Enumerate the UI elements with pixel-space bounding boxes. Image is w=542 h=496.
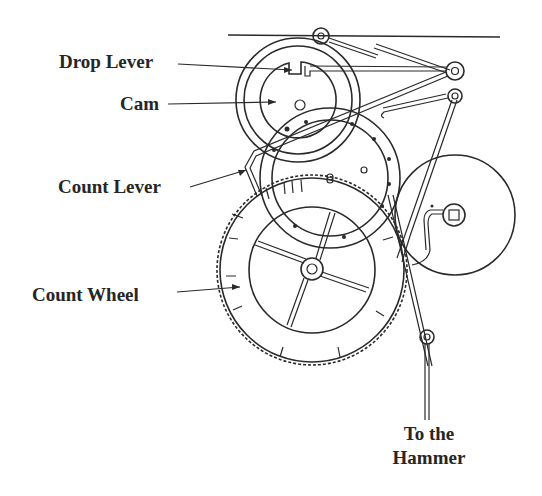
label-to-the: To the: [384, 424, 474, 443]
top-frame-line: [228, 35, 500, 37]
intermediate-wheel-inner: [272, 120, 388, 236]
label-drop-lever: Drop Lever: [59, 52, 153, 71]
upper-arm: [329, 38, 378, 58]
hammer-arm-pivot: [448, 89, 462, 103]
label-to-the-hammer: To the Hammer: [384, 424, 474, 467]
leader-lines: [168, 64, 292, 292]
mechanism-drawing: [0, 0, 542, 496]
label-cam: Cam: [120, 94, 159, 113]
count-wheel-spokes: [255, 212, 369, 327]
fly-arbor: [443, 204, 465, 226]
clock-mechanism-diagram: Drop Lever Cam Count Lever Count Wheel T…: [0, 0, 542, 496]
label-hammer: Hammer: [384, 448, 474, 467]
count-wheel-hub: [301, 258, 323, 280]
right-pivot: [446, 62, 464, 80]
label-count-lever: Count Lever: [58, 177, 161, 196]
fly-wheel: [395, 155, 515, 275]
count-wheel-rim: [249, 207, 375, 333]
label-count-wheel: Count Wheel: [32, 285, 139, 304]
cam-arbor: [295, 100, 305, 110]
count-wheel: [217, 175, 407, 365]
